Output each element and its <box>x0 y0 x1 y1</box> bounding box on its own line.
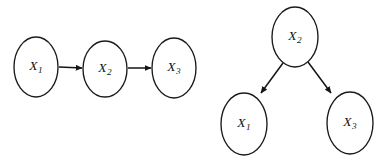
edge-left-x1-to-x2 <box>59 67 82 68</box>
graph-svg: X1 X2 X3 X2 X1 X3 <box>0 0 385 162</box>
diagram-chain-graph: X1 X2 X3 <box>14 37 196 98</box>
edge-right-x2-to-x3 <box>308 62 331 93</box>
diagram-fork-graph: X2 X1 X3 <box>221 7 373 155</box>
figure-canvas: X1 X2 X3 X2 X1 X3 <box>0 0 385 162</box>
edge-right-x2-to-x1 <box>261 63 283 93</box>
